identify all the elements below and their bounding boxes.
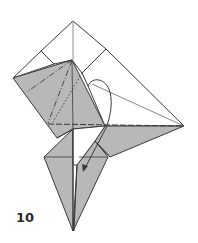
step-number: 10 [16,210,34,225]
right-gray-wing [95,126,184,157]
origami-diagram [0,0,198,243]
left-bottom-flap [44,129,73,231]
